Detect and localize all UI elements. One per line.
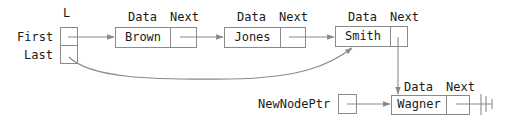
pointer-arrows xyxy=(0,0,510,125)
linked-list-diagram: L First Last Data Next Brown Data Next J… xyxy=(0,0,510,125)
last-to-smith-arrow xyxy=(69,48,352,79)
